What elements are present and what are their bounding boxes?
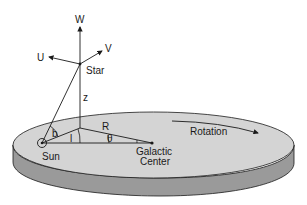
sun-label: Sun [42, 151, 60, 162]
rotation-label: Rotation [190, 126, 227, 137]
U-label: U [37, 52, 44, 63]
galactic-center-label-2: Center [140, 156, 171, 167]
b-label: b [52, 128, 58, 139]
disk-top [13, 112, 294, 178]
theta-label: θ [107, 133, 113, 144]
star-label: Star [86, 65, 105, 76]
l-label: l [70, 133, 72, 144]
galactic-coordinate-diagram: Rotation b l R θ z Sun Galactic Center [0, 0, 307, 205]
z-label: z [83, 92, 88, 103]
star-point [79, 63, 82, 66]
V-axis [80, 51, 102, 64]
galactic-center-dot [150, 141, 153, 144]
R-label: R [102, 121, 109, 132]
U-axis [49, 57, 80, 64]
W-label: W [75, 14, 85, 25]
V-label: V [105, 43, 112, 54]
